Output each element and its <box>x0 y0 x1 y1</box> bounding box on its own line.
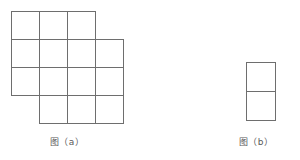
grid-cell <box>12 68 40 96</box>
grid-cell <box>68 12 96 40</box>
grid-cell <box>40 40 68 68</box>
figure-b-caption: 图（b） <box>212 136 300 148</box>
figure-board: 图（a） 图（b） <box>0 0 300 160</box>
figure-a-diagram <box>4 4 130 130</box>
grid-cell <box>247 63 276 92</box>
grid-cell <box>68 68 96 96</box>
grid-cell <box>40 96 68 124</box>
grid-cell <box>40 12 68 40</box>
figure-a-caption: 图（a） <box>0 136 134 148</box>
figure-b-cells <box>247 63 276 121</box>
figure-a-cells <box>12 12 124 124</box>
grid-cell <box>96 68 124 96</box>
figure-b-diagram <box>238 54 286 130</box>
grid-cell <box>247 92 276 121</box>
grid-cell <box>96 40 124 68</box>
grid-cell <box>68 96 96 124</box>
grid-cell <box>96 96 124 124</box>
grid-cell <box>12 40 40 68</box>
grid-cell <box>68 40 96 68</box>
grid-cell <box>40 68 68 96</box>
grid-cell <box>12 12 40 40</box>
